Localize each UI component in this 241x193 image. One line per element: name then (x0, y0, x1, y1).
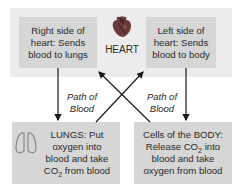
path-label-line: Path of (60, 91, 104, 103)
blood-path-arrows (0, 0, 241, 193)
path-of-blood-label-left: Path of Blood (60, 91, 104, 115)
path-of-blood-label-right: Path of Blood (140, 91, 184, 115)
path-label-line: Path of (140, 91, 184, 103)
path-label-line: Blood (140, 103, 184, 115)
path-label-line: Blood (60, 103, 104, 115)
